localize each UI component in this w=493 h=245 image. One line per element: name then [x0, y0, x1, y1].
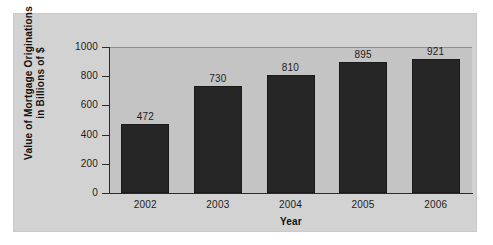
y-tick-label-600: 600	[58, 100, 98, 110]
bar-2003[interactable]	[194, 86, 242, 193]
bar-2004[interactable]	[267, 75, 315, 193]
y-tick-label-1000: 1000	[58, 42, 98, 52]
x-axis-line	[109, 193, 473, 194]
y-tick-label-0: 0	[58, 188, 98, 198]
bar-value-2005: 895	[333, 50, 393, 60]
y-axis-line	[109, 47, 110, 194]
bar-value-2006: 921	[406, 47, 466, 57]
y-tick-mark-1000	[102, 47, 109, 48]
x-tick-label-2003: 2003	[188, 199, 248, 210]
bar-2006[interactable]	[412, 59, 460, 193]
bar-value-2004: 810	[261, 63, 321, 73]
y-tick-label-200: 200	[58, 159, 98, 169]
y-axis-title-line1: Value of Mortgage Originations	[23, 3, 35, 163]
y-tick-mark-600	[102, 105, 109, 106]
chart-panel: 1000 800 600 400 200 0 472 730 810	[13, 13, 477, 232]
y-tick-mark-0	[102, 193, 109, 194]
bar-value-2002: 472	[115, 112, 175, 122]
bar-2005[interactable]	[339, 62, 387, 193]
x-tick-label-2005: 2005	[333, 199, 393, 210]
x-tick-label-2002: 2002	[115, 199, 175, 210]
figure: 1000 800 600 400 200 0 472 730 810	[0, 0, 493, 245]
x-axis-title: Year	[109, 216, 473, 227]
y-tick-label-800: 800	[58, 71, 98, 81]
y-tick-mark-400	[102, 135, 109, 136]
x-tick-label-2006: 2006	[406, 199, 466, 210]
y-tick-mark-800	[102, 76, 109, 77]
y-axis-title: Value of Mortgage Originations in Billio…	[23, 3, 47, 163]
y-tick-mark-200	[102, 164, 109, 165]
y-axis-title-line2: in Billions of $	[35, 3, 47, 163]
bar-2002[interactable]	[121, 124, 169, 193]
bar-value-2003: 730	[188, 74, 248, 84]
y-tick-label-400: 400	[58, 130, 98, 140]
x-tick-label-2004: 2004	[261, 199, 321, 210]
